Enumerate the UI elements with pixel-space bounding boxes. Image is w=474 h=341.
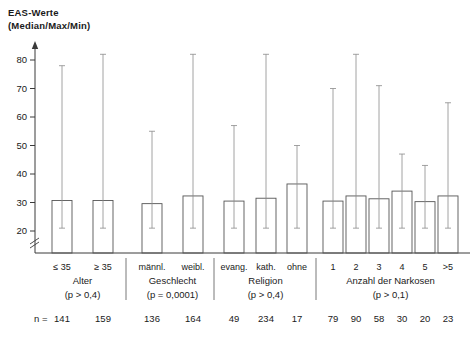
group-name: Geschlecht — [149, 275, 197, 286]
category-label: 5 — [422, 262, 427, 272]
n-value: 30 — [397, 313, 408, 324]
bars-group — [52, 54, 458, 253]
category-label: 3 — [376, 262, 381, 272]
y-tick-label-70: 70 — [16, 83, 27, 94]
category-label: ≤ 35 — [53, 262, 70, 272]
chart-page: EAS-Werte (Median/Max/Min) 2030405060708… — [0, 0, 474, 341]
n-value: 164 — [185, 313, 201, 324]
n-value: 141 — [54, 313, 70, 324]
n-value: 20 — [420, 313, 431, 324]
n-value: 79 — [328, 313, 339, 324]
category-label: evang. — [220, 262, 247, 272]
y-tick-label-30: 30 — [16, 197, 27, 208]
group-p-value: (p > 0,1) — [373, 289, 409, 300]
category-label: weibl. — [181, 262, 204, 272]
n-row-label: n = — [34, 313, 47, 324]
y-tick-label-20: 20 — [16, 225, 27, 236]
n-value: 23 — [443, 313, 454, 324]
group-p-value: (p = 0,0001) — [147, 289, 199, 300]
y-tick-label-80: 80 — [16, 54, 27, 65]
group-name: Alter — [73, 275, 93, 286]
category-label: ohne — [287, 262, 307, 272]
n-value: 49 — [229, 313, 240, 324]
category-label: 2 — [353, 262, 358, 272]
category-label: kath. — [256, 262, 276, 272]
n-value: 90 — [351, 313, 362, 324]
category-label: männl. — [138, 262, 165, 272]
group-p-value: (p > 0,4) — [65, 289, 101, 300]
y-tick-label-60: 60 — [16, 111, 27, 122]
n-value: 159 — [95, 313, 111, 324]
group-p-value: (p > 0,4) — [248, 289, 284, 300]
category-label: 4 — [399, 262, 404, 272]
category-label: 1 — [330, 262, 335, 272]
y-axis-arrow — [32, 41, 38, 49]
n-value: 58 — [374, 313, 385, 324]
n-value: 136 — [144, 313, 160, 324]
y-tick-label-40: 40 — [16, 168, 27, 179]
category-label: ≥ 35 — [94, 262, 111, 272]
category-label: >5 — [443, 262, 453, 272]
y-tick-label-50: 50 — [16, 140, 27, 151]
n-value: 234 — [258, 313, 274, 324]
group-name: Anzahl der Narkosen — [346, 275, 435, 286]
n-value: 17 — [292, 313, 303, 324]
group-name: Religion — [248, 275, 282, 286]
